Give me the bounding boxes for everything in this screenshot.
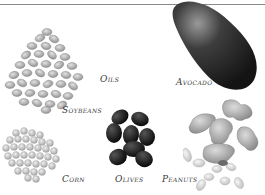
label-peanuts: Peanuts — [162, 174, 197, 184]
soybeans-image — [2, 22, 92, 114]
corn-image — [2, 127, 64, 183]
label-corn: Corn — [62, 174, 85, 184]
olives-image — [104, 105, 156, 175]
label-oils: Oils — [100, 74, 119, 84]
label-olives: Olives — [115, 174, 143, 184]
label-avocado: Avocado — [176, 77, 212, 87]
label-soybeans: Soybeans — [62, 105, 102, 115]
